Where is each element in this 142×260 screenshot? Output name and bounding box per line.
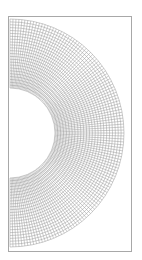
mesh-ring: [10, 82, 61, 184]
mesh-spoke: [48, 71, 106, 109]
mesh-ring: [10, 88, 55, 178]
mesh-spoke: [48, 158, 106, 196]
mesh-diagram: [0, 0, 142, 260]
mesh-radial-lines: [10, 19, 124, 247]
mesh-spoke: [35, 171, 73, 229]
mesh-ring: [10, 85, 58, 181]
mesh-spoke: [35, 37, 73, 95]
